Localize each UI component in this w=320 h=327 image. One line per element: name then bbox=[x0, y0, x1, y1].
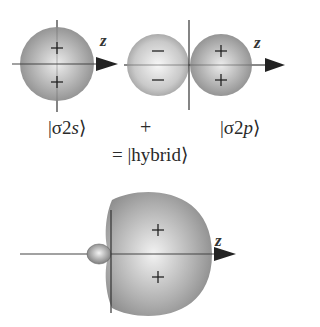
arrow-right-icon bbox=[96, 57, 118, 71]
ket-sigma-2p: |σ2p⟩ bbox=[220, 116, 260, 139]
hybrid-orbital bbox=[20, 192, 236, 316]
z-axis-label: z bbox=[215, 231, 222, 251]
z-axis-label: z bbox=[254, 33, 261, 53]
ket-hybrid: = |hybrid⟩ bbox=[112, 143, 188, 166]
arrow-right-icon bbox=[265, 58, 285, 72]
z-axis-label: z bbox=[100, 31, 107, 51]
minor-lobe bbox=[87, 244, 111, 264]
ket-sigma-2s: |σ2s⟩ bbox=[48, 116, 86, 139]
plus-operator: + bbox=[140, 116, 151, 139]
